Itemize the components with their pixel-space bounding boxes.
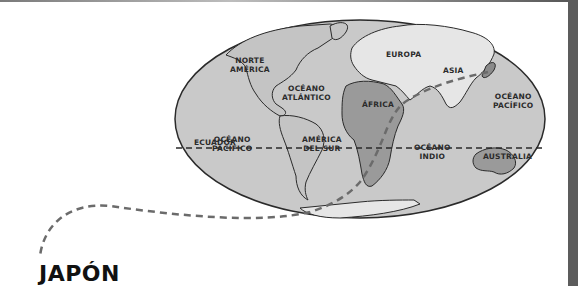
label-indian-ocean: OCÉANO INDIO xyxy=(414,143,451,161)
label-pacific-ocean-west: OCÉANO PACÍFICO xyxy=(212,135,252,153)
label-pacific-ocean-east: OCÉANO PACÍFICO xyxy=(493,92,533,110)
label-atlantic-ocean: OCÉANO ATLÁNTICO xyxy=(282,84,331,102)
world-map xyxy=(0,0,578,286)
label-africa: ÁFRICA xyxy=(362,100,394,109)
label-south-america: AMÉRICA DEL SUR xyxy=(302,135,342,153)
page-title: JAPÓN xyxy=(39,262,120,286)
right-border-strip xyxy=(568,0,578,286)
label-north-america: NORTE AMÉRICA xyxy=(230,56,270,74)
label-australia: AUSTRALIA xyxy=(483,152,532,161)
label-asia: ASIA xyxy=(443,66,464,75)
label-europe: EUROPA xyxy=(386,50,421,59)
